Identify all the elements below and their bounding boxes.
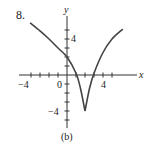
x-axis-label: x (139, 70, 143, 80)
caption: (b) (61, 132, 73, 142)
y-tick-label-4: 4 (71, 34, 76, 44)
y-tick-label-neg4: −4 (48, 107, 59, 117)
y-axis-label: y (64, 5, 68, 15)
problem-number: 8. (16, 9, 25, 21)
x-tick-label-4: 4 (101, 80, 106, 90)
x-tick-label-neg4: −4 (18, 80, 29, 90)
graph (0, 0, 154, 149)
function-curve (30, 23, 123, 111)
x-tick-label-0: 0 (57, 80, 62, 90)
